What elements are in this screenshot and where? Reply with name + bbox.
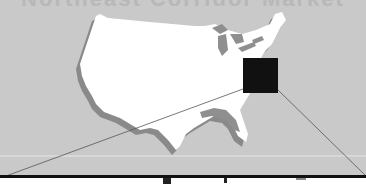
map-graphic: Northeast Corridor Market: [0, 0, 366, 184]
us-map: [0, 0, 366, 184]
detail-glyph: [224, 178, 227, 183]
callout-line-right: [277, 89, 366, 176]
detail-glyph: [296, 178, 306, 180]
detail-glyph: [163, 178, 171, 184]
callout-detail-box: [0, 175, 366, 184]
highlight-marker: [243, 58, 278, 93]
